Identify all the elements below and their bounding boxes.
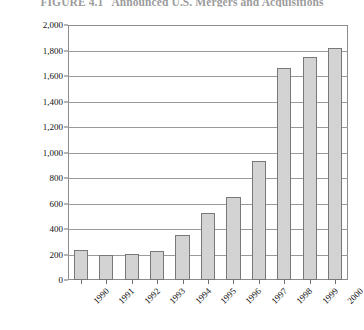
bars-layer <box>68 25 348 280</box>
x-tick-mark <box>208 280 209 284</box>
x-tick-mark <box>106 280 107 284</box>
y-tick-label: 200 <box>50 250 64 260</box>
x-tick-mark <box>157 280 158 284</box>
x-tick-label: 1991 <box>116 286 136 306</box>
bar-1999 <box>303 57 317 280</box>
bar-1994 <box>175 235 189 280</box>
x-tick-label: 1994 <box>193 286 213 306</box>
x-tick-mark <box>233 280 234 284</box>
x-tick-mark <box>335 280 336 284</box>
bar-1998 <box>277 68 291 280</box>
bar-1997 <box>252 161 266 280</box>
x-tick-label: 1990 <box>91 286 111 306</box>
y-tick-label: 1,600 <box>43 71 63 81</box>
y-tick-label: 600 <box>50 199 64 209</box>
y-tick-label: 400 <box>50 224 64 234</box>
x-tick-mark <box>284 280 285 284</box>
bar-2000 <box>328 48 342 280</box>
x-tick-mark <box>81 280 82 284</box>
bar-1991 <box>99 255 113 281</box>
figure-title: FIGURE 4.1Announced U.S. Mergers and Acq… <box>0 0 364 7</box>
x-tick-mark <box>183 280 184 284</box>
x-tick-mark <box>132 280 133 284</box>
x-tick-label: 1995 <box>218 286 238 306</box>
bar-1990 <box>74 250 88 280</box>
bar-1992 <box>125 254 139 280</box>
x-tick-label: 2000 <box>346 286 364 306</box>
bar-chart: Billions of 2000 dollars 02004006008001,… <box>68 25 348 280</box>
x-tick-mark <box>310 280 311 284</box>
y-tick-label: 2,000 <box>43 20 63 30</box>
figure-title-text: Announced U.S. Mergers and Acquisitions <box>111 0 323 7</box>
y-tick-label: 1,000 <box>43 148 63 158</box>
y-tick-label: 1,400 <box>43 97 63 107</box>
y-tick-label: 1,800 <box>43 46 63 56</box>
x-tick-label: 1999 <box>320 286 340 306</box>
bar-1995 <box>201 213 215 280</box>
x-tick-label: 1997 <box>269 286 289 306</box>
y-tick-label: 1,200 <box>43 122 63 132</box>
x-tick-mark <box>259 280 260 284</box>
bar-1996 <box>226 197 240 280</box>
x-tick-label: 1993 <box>167 286 187 306</box>
x-tick-label: 1996 <box>244 286 264 306</box>
x-tick-label: 1998 <box>295 286 315 306</box>
bar-1993 <box>150 251 164 280</box>
y-tick-label: 0 <box>59 275 64 285</box>
x-tick-label: 1992 <box>142 286 162 306</box>
y-tick-label: 800 <box>50 173 64 183</box>
